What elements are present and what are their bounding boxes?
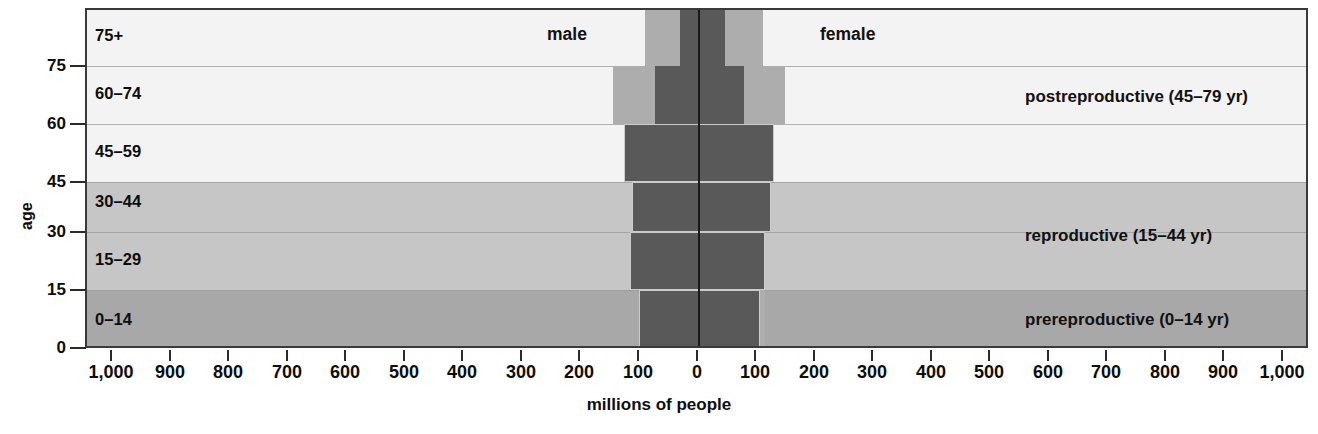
y-tick-mark-45	[70, 181, 86, 183]
x-tick-label-right-100: 100	[740, 362, 770, 383]
population-pyramid-chart: 75+ 60–74 45–59 30–44 15–29 0–14 male fe…	[0, 0, 1318, 434]
x-tick-label-right-600: 600	[1033, 362, 1063, 383]
x-tick-mark-left-500	[403, 350, 405, 361]
x-tick-mark-left-700	[286, 350, 288, 361]
x-tick-mark-left-1000	[110, 350, 112, 361]
age-band-label-30-44: 30–44	[95, 192, 141, 211]
y-tick-label-15: 15	[20, 280, 66, 300]
x-tick-label-left-500: 500	[389, 362, 419, 383]
bar-female-15-29	[699, 232, 765, 290]
x-tick-label-left-100: 100	[623, 362, 653, 383]
y-tick-label-30: 30	[20, 222, 66, 242]
age-band-label-0-14: 0–14	[95, 310, 132, 329]
bar-row-30-44	[87, 182, 1306, 232]
center-axis-line	[698, 10, 700, 346]
bar-male-75plus	[680, 10, 699, 66]
age-band-label-15-29: 15–29	[95, 250, 141, 269]
x-tick-mark-left-400	[461, 350, 463, 361]
x-tick-label-right-1000: 1,000	[1259, 362, 1304, 383]
x-tick-mark-right-500	[988, 350, 990, 361]
x-tick-mark-right-1000	[1281, 350, 1283, 361]
x-tick-mark-left-900	[169, 350, 171, 361]
x-tick-mark-right-200	[813, 350, 815, 361]
x-tick-label-left-1000: 1,000	[88, 362, 133, 383]
x-tick-label-left-700: 700	[272, 362, 302, 383]
x-tick-mark-left-100	[637, 350, 639, 361]
x-tick-mark-right-100	[754, 350, 756, 361]
age-band-label-45-59: 45–59	[95, 142, 141, 161]
bar-row-75plus	[87, 10, 1306, 66]
x-tick-mark-left-200	[578, 350, 580, 361]
bar-female-45-59	[699, 124, 774, 182]
x-tick-mark-left-800	[227, 350, 229, 361]
y-tick-label-75: 75	[20, 56, 66, 76]
label-female: female	[820, 24, 875, 45]
y-tick-label-45: 45	[20, 172, 66, 192]
x-tick-mark-right-400	[930, 350, 932, 361]
y-tick-label-0: 0	[20, 338, 66, 358]
zone-label-postreproductive: postreproductive (45–79 yr)	[1025, 87, 1248, 107]
bar-female-30-44	[699, 182, 771, 232]
bar-female-0-14	[699, 290, 760, 348]
x-tick-mark-left-600	[344, 350, 346, 361]
x-tick-label-right-900: 900	[1208, 362, 1238, 383]
y-tick-mark-60	[70, 123, 86, 125]
bar-male-30-44	[632, 182, 699, 232]
x-tick-label-center-0: 0	[692, 362, 702, 383]
x-tick-label-right-500: 500	[974, 362, 1004, 383]
bar-female-75plus	[699, 10, 725, 66]
bar-row-45-59	[87, 124, 1306, 182]
x-tick-label-right-200: 200	[799, 362, 829, 383]
y-tick-mark-0	[70, 347, 86, 349]
label-male: male	[547, 24, 587, 45]
x-tick-mark-center-0	[696, 350, 698, 361]
y-tick-mark-30	[70, 231, 86, 233]
x-tick-mark-right-300	[871, 350, 873, 361]
x-tick-label-left-200: 200	[564, 362, 594, 383]
age-band-label-60-74: 60–74	[95, 84, 141, 103]
y-tick-label-60: 60	[20, 114, 66, 134]
bar-male-15-29	[630, 232, 699, 290]
bar-male-0-14	[639, 290, 699, 348]
x-axis-title: millions of people	[0, 395, 1318, 415]
x-tick-mark-right-600	[1047, 350, 1049, 361]
y-tick-mark-75	[70, 65, 86, 67]
x-tick-label-right-700: 700	[1091, 362, 1121, 383]
x-tick-label-right-400: 400	[916, 362, 946, 383]
x-tick-mark-left-300	[520, 350, 522, 361]
x-tick-label-left-400: 400	[447, 362, 477, 383]
bar-male-60-74	[655, 66, 699, 124]
x-tick-label-right-800: 800	[1150, 362, 1180, 383]
x-tick-mark-right-900	[1222, 350, 1224, 361]
x-tick-mark-right-700	[1105, 350, 1107, 361]
x-tick-label-left-900: 900	[155, 362, 185, 383]
x-tick-mark-right-800	[1164, 350, 1166, 361]
age-band-label-75plus: 75+	[95, 26, 123, 45]
y-tick-mark-15	[70, 289, 86, 291]
x-tick-label-left-800: 800	[213, 362, 243, 383]
zone-label-reproductive: reproductive (15–44 yr)	[1025, 226, 1212, 246]
x-tick-label-right-300: 300	[857, 362, 887, 383]
bar-female-60-74	[699, 66, 744, 124]
bar-male-45-59	[624, 124, 699, 182]
plot-area: 75+ 60–74 45–59 30–44 15–29 0–14 male fe…	[85, 8, 1308, 348]
zone-label-prereproductive: prereproductive (0–14 yr)	[1025, 310, 1229, 330]
x-tick-label-left-600: 600	[330, 362, 360, 383]
x-tick-label-left-300: 300	[506, 362, 536, 383]
